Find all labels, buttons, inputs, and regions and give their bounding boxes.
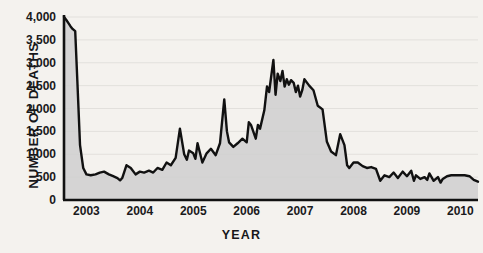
- x-tick-label: 2005: [180, 204, 207, 218]
- x-tick-label: 2006: [233, 204, 260, 218]
- x-axis-title: YEAR: [0, 228, 483, 242]
- x-tick-label: 2010: [447, 204, 474, 218]
- x-tick-label: 2007: [287, 204, 314, 218]
- x-tick-label: 2003: [73, 204, 100, 218]
- x-tick-label: 2009: [394, 204, 421, 218]
- death-toll-line-chart: NUMBER OF DEATHS 05001,0001,5002,0002,50…: [0, 0, 483, 253]
- x-tick-label: 2008: [340, 204, 367, 218]
- x-tick-label: 2004: [126, 204, 153, 218]
